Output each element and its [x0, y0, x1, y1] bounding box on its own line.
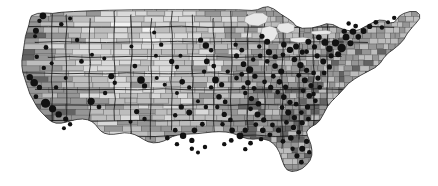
us-county-choropleth-canvas: [0, 0, 438, 186]
map-figure: United States county choropleth with pro…: [0, 0, 438, 186]
